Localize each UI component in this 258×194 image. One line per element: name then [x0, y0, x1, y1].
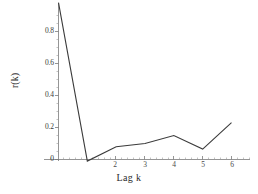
acf-chart: 0.8 0.6 0.4 0.2 0 2 3 4 5 6 Lag k r(k)	[0, 0, 258, 194]
x-tick-label: 5	[195, 160, 211, 169]
y-axis-title-wrapper: r(k)	[3, 58, 25, 110]
x-axis-title: Lag k	[0, 172, 258, 183]
x-tick-label: 4	[166, 160, 182, 169]
y-axis-title: r(k)	[9, 61, 20, 101]
x-tick-label: 3	[137, 160, 153, 169]
x-tick-label-group: 2 3 4 5 6	[0, 0, 258, 194]
x-tick-label: 2	[107, 160, 123, 169]
x-tick-label: 6	[224, 160, 240, 169]
